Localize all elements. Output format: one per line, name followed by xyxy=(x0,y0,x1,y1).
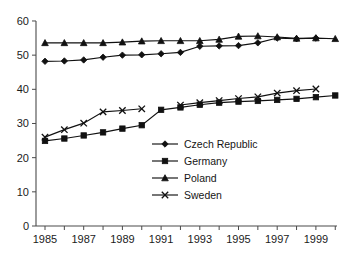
data-point-germany xyxy=(100,130,105,135)
data-point-germany xyxy=(275,97,280,102)
data-point-czech-republic xyxy=(197,43,203,49)
data-point-czech-republic xyxy=(81,57,87,63)
data-point-germany xyxy=(158,107,163,112)
data-point-czech-republic xyxy=(119,52,125,58)
x-axis-tick-label: 1995 xyxy=(226,233,250,245)
data-point-czech-republic xyxy=(100,54,106,60)
line-chart: 0102030405060198519871989199119931995199… xyxy=(0,0,347,262)
legend-label-czech-republic: Czech Republic xyxy=(184,138,258,150)
data-point-germany xyxy=(81,133,86,138)
x-axis-tick-label: 1987 xyxy=(71,233,95,245)
data-point-czech-republic xyxy=(139,52,145,58)
data-point-legend-germany xyxy=(162,158,167,163)
y-axis-tick-label: 60 xyxy=(17,15,29,27)
y-axis-tick-label: 40 xyxy=(17,83,29,95)
series-line-sweden xyxy=(45,109,142,137)
x-axis-tick-label: 1991 xyxy=(149,233,173,245)
legend-label-poland: Poland xyxy=(184,172,217,184)
x-axis-tick-label: 1989 xyxy=(110,233,134,245)
series-line-germany xyxy=(45,95,335,140)
data-point-czech-republic xyxy=(158,51,164,57)
data-point-germany xyxy=(120,126,125,131)
y-axis-tick-label: 50 xyxy=(17,49,29,61)
data-point-germany xyxy=(294,96,299,101)
y-axis-tick-label: 20 xyxy=(17,152,29,164)
data-point-legend-czech-republic xyxy=(162,141,168,147)
x-axis-tick-label: 1999 xyxy=(304,233,328,245)
data-point-germany xyxy=(139,122,144,127)
legend-label-germany: Germany xyxy=(184,155,228,167)
data-point-czech-republic xyxy=(235,42,241,48)
data-point-czech-republic xyxy=(216,43,222,49)
y-axis-tick-label: 10 xyxy=(17,186,29,198)
y-axis-tick-label: 30 xyxy=(17,117,29,129)
chart-plot-area: 0102030405060198519871989199119931995199… xyxy=(0,0,347,262)
data-point-germany xyxy=(333,93,338,98)
legend-label-sweden: Sweden xyxy=(184,189,222,201)
data-point-germany xyxy=(62,136,67,141)
data-point-czech-republic xyxy=(255,40,261,46)
x-axis-tick-label: 1985 xyxy=(33,233,57,245)
y-axis-tick-label: 0 xyxy=(23,220,29,232)
x-axis-tick-label: 1993 xyxy=(188,233,212,245)
data-point-germany xyxy=(313,94,318,99)
data-point-czech-republic xyxy=(61,58,67,64)
series-line-poland xyxy=(45,36,335,43)
data-point-czech-republic xyxy=(177,49,183,55)
data-point-czech-republic xyxy=(42,58,48,64)
x-axis-tick-label: 1997 xyxy=(265,233,289,245)
